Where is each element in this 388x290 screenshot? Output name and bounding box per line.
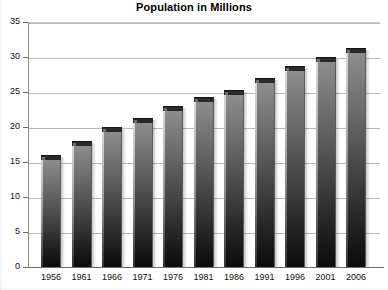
bar-shadow [183,108,187,267]
y-axis-label-35: 35 [0,17,20,26]
y-tickmark-5 [23,232,28,233]
bar-highlight [224,94,226,267]
y-tickmark-10 [23,197,28,198]
bar-body [224,94,244,267]
bar-top-cap [194,97,214,102]
bar-shadow [275,80,279,267]
bar-top-cap [72,141,92,146]
bar-body [72,145,92,267]
y-axis-label-5: 5 [0,227,20,236]
bar-1981[interactable] [194,97,214,267]
bar-shadow [214,99,218,267]
bar-shadow [336,59,340,267]
bar-2006[interactable] [346,48,366,267]
y-axis-label-0: 0 [0,262,20,271]
y-tickmark-0 [23,267,28,268]
x-axis-line [24,267,384,268]
bar-1961[interactable] [72,141,92,267]
bar-shadow [153,120,157,267]
bar-highlight [163,110,165,267]
bar-body [194,101,214,267]
bar-body [346,52,366,267]
y-tickmark-15 [23,162,28,163]
bar-top-cap [41,155,61,160]
x-axis-label-2006: 2006 [336,272,376,282]
y-axis-label-30: 30 [0,52,20,61]
bar-top-cap [224,90,244,95]
bar-1956[interactable] [41,155,61,267]
bar-highlight [255,82,257,267]
bar-2001[interactable] [316,57,336,267]
bar-top-cap [163,106,183,111]
y-axis-label-15: 15 [0,157,20,166]
bar-highlight [285,70,287,267]
bar-1991[interactable] [255,78,275,267]
bar-body [41,159,61,267]
bar-1966[interactable] [102,127,122,267]
bar-top-cap [316,57,336,62]
y-axis-label-25: 25 [0,87,20,96]
y-axis-label-10: 10 [0,192,20,201]
bar-1986[interactable] [224,90,244,267]
bar-top-cap [285,66,305,71]
bar-highlight [346,52,348,267]
bar-shadow [122,129,126,267]
bar-body [163,110,183,267]
bar-body [316,61,336,267]
bars-layer [28,22,380,267]
bar-highlight [72,145,74,267]
bar-1971[interactable] [133,118,153,267]
bar-body [285,70,305,267]
y-axis-label-20: 20 [0,122,20,131]
bar-body [133,122,153,267]
bar-shadow [305,68,309,267]
y-tickmark-20 [23,127,28,128]
bar-body [255,82,275,267]
bar-top-cap [102,127,122,132]
bar-highlight [102,131,104,267]
bar-top-cap [133,118,153,123]
bar-chart: Population in Millions 05101520253035195… [0,0,388,290]
bar-shadow [366,50,370,267]
bar-1976[interactable] [163,106,183,267]
bar-body [102,131,122,267]
y-tickmark-25 [23,92,28,93]
bar-highlight [133,122,135,267]
bar-highlight [316,61,318,267]
bar-highlight [41,159,43,267]
bar-1996[interactable] [285,66,305,267]
bar-shadow [61,157,65,267]
bar-shadow [244,92,248,267]
bar-top-cap [346,48,366,53]
chart-title: Population in Millions [0,1,388,14]
bar-shadow [92,143,96,267]
y-tickmark-35 [23,22,28,23]
bar-highlight [194,101,196,267]
bar-top-cap [255,78,275,83]
y-tickmark-30 [23,57,28,58]
scan-edge-left [0,0,3,290]
